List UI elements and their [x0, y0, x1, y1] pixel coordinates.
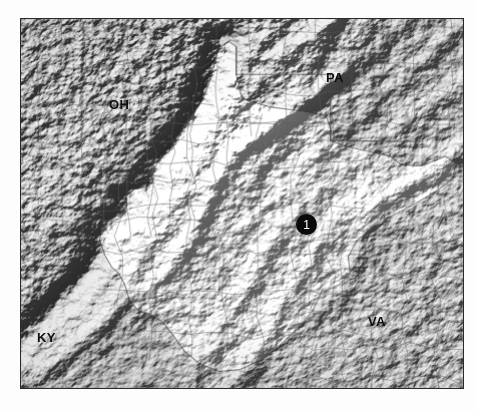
site-marker-label: 1 — [303, 219, 310, 231]
map-figure-frame: OH PA VA KY 1 — [20, 18, 464, 389]
state-label-ky: KY — [37, 331, 56, 344]
shaded-relief-terrain-canvas — [21, 19, 463, 388]
state-label-oh: OH — [109, 98, 129, 111]
state-label-pa: PA — [326, 71, 344, 84]
state-label-va: VA — [368, 315, 386, 328]
map-page: OH PA VA KY 1 — [0, 0, 477, 410]
site-marker-1[interactable]: 1 — [296, 214, 317, 235]
